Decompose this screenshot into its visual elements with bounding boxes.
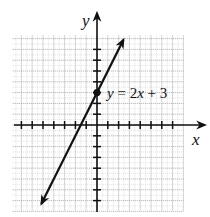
equation-rest: + 3 <box>144 85 167 101</box>
coordinate-plane: y x y = 2x + 3 <box>0 0 210 217</box>
grid-lines <box>13 35 184 211</box>
intercept-dot <box>93 89 100 96</box>
y-intercept-point <box>93 89 100 96</box>
equation-var-y: y <box>105 85 114 101</box>
y-axis-label: y <box>80 11 90 30</box>
x-axis-label: x <box>191 130 200 149</box>
equation-equals: = 2 <box>114 85 137 101</box>
equation-label: y = 2x + 3 <box>105 85 167 101</box>
